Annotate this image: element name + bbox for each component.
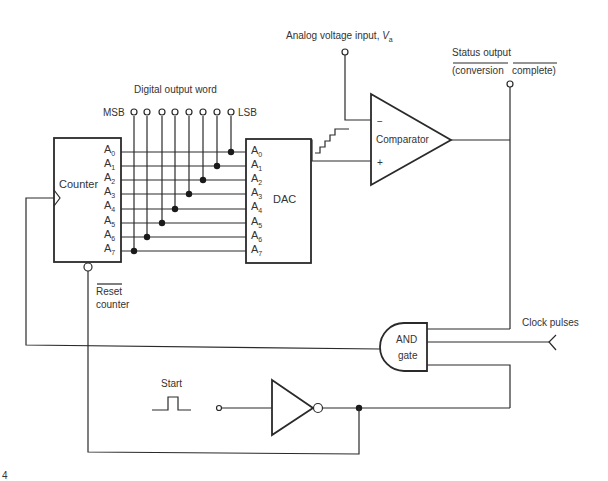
data-bus [121,152,246,251]
bit4-terminal [172,109,178,115]
bit3-terminal [186,109,192,115]
and-gate: AND gate [380,323,427,371]
bit1-terminal [214,109,220,115]
digital-output-word: Digital output word MSB LSB [103,84,257,254]
inverter [272,380,313,435]
bit7-terminal [131,109,137,115]
clock-pulses-label: Clock pulses [522,317,579,328]
status-output-label: Status output [452,47,511,58]
start-pulse-icon [152,397,191,410]
start-label: Start [161,378,182,389]
dac-label: DAC [273,193,296,205]
svg-text:Analog voltage input, Va: Analog voltage input, Va [286,30,393,43]
dac-output [311,129,371,161]
svg-text:complete): complete) [512,65,556,76]
bit6-terminal [144,109,150,115]
status-output: Status output (conversion complete) [427,47,557,329]
staircase-waveform-icon [315,129,349,153]
status-output-terminal [507,81,513,87]
comparator: Comparator − + [371,94,451,185]
reset-label: Reset [96,286,122,297]
comparator-minus: − [377,116,383,127]
clock-pulses: Clock pulses [427,317,579,350]
bit5-terminal [159,109,165,115]
corner-mark: 4 [2,470,8,481]
digital-output-word-label: Digital output word [134,84,217,95]
comparator-plus: + [377,157,383,168]
start-terminal [217,406,222,411]
lsb-label: LSB [238,107,257,118]
and-gate-label: AND [396,334,417,345]
start-circuit: Start [88,271,510,454]
reset-bubble-icon [84,263,92,271]
counter-label: Counter [59,178,98,190]
comparator-label: Comparator [376,134,429,145]
adc-counter-diagram: Counter A0 A1 A2 A3 A4 A5 A6 A7 DAC A0 A… [0,0,608,481]
svg-text:(conversion: (conversion [452,65,504,76]
bit0-terminal [228,109,234,115]
inverter-bubble-icon [314,404,323,413]
counter-block: Counter A0 A1 A2 A3 A4 A5 A6 A7 [54,138,121,271]
reset-counter: Reset counter [96,284,130,310]
svg-text:gate: gate [398,350,418,361]
dac-block: DAC A0 A1 A2 A3 A4 A5 A6 A7 [246,139,311,263]
svg-text:counter: counter [96,299,130,310]
clock-input-arrow-icon [549,335,556,350]
analog-input-terminal [342,49,348,55]
analog-input-label: Analog voltage input, [286,30,382,41]
msb-label: MSB [103,107,125,118]
bit2-terminal [200,109,206,115]
